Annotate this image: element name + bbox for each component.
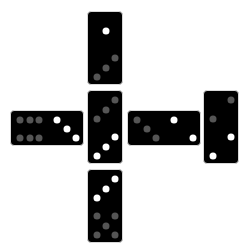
pip-icon (134, 117, 141, 124)
domino-center[interactable] (87, 90, 123, 164)
domino-right[interactable] (127, 110, 201, 146)
pip-icon (103, 106, 110, 113)
pip-icon (94, 73, 101, 80)
pip-icon (94, 115, 101, 122)
domino-half-5 (88, 207, 124, 244)
pip-icon (112, 97, 119, 104)
domino-bottom[interactable] (87, 169, 123, 243)
pip-icon (112, 134, 119, 141)
pip-icon (152, 135, 159, 142)
pip-icon (171, 117, 178, 124)
pip-icon (112, 55, 119, 62)
pip-icon (103, 222, 110, 229)
pip-icon (17, 117, 24, 124)
domino-far-right[interactable] (203, 90, 239, 164)
domino-half-2 (165, 111, 202, 147)
domino-left[interactable] (10, 110, 84, 146)
domino-half-6 (11, 111, 48, 147)
pip-icon (112, 176, 119, 183)
domino-half-2 (204, 128, 239, 165)
pip-icon (228, 134, 235, 141)
pip-icon (26, 117, 33, 124)
pip-icon (72, 135, 79, 142)
pip-icon (210, 115, 217, 122)
pip-icon (63, 126, 70, 133)
pip-icon (35, 117, 42, 124)
pip-icon (103, 64, 110, 71)
pip-icon (94, 152, 101, 159)
pip-icon (103, 27, 110, 34)
domino-half-3 (88, 170, 124, 207)
pip-icon (228, 97, 235, 104)
domino-half-1 (88, 12, 124, 49)
pip-icon (210, 152, 217, 159)
domino-top[interactable] (87, 11, 123, 85)
pip-icon (94, 213, 101, 220)
domino-half-3 (88, 91, 124, 128)
domino-half-3 (88, 49, 124, 86)
pip-icon (112, 231, 119, 238)
pip-icon (35, 135, 42, 142)
domino-half-3 (88, 128, 124, 165)
domino-half-3 (128, 111, 165, 147)
pip-icon (103, 143, 110, 150)
domino-half-3 (48, 111, 85, 147)
pip-icon (54, 117, 61, 124)
pip-icon (112, 213, 119, 220)
domino-half-2 (204, 91, 239, 128)
pip-icon (143, 126, 150, 133)
pip-icon (103, 185, 110, 192)
pip-icon (94, 194, 101, 201)
pip-icon (94, 231, 101, 238)
pip-icon (26, 135, 33, 142)
pip-icon (17, 135, 24, 142)
pip-icon (189, 135, 196, 142)
